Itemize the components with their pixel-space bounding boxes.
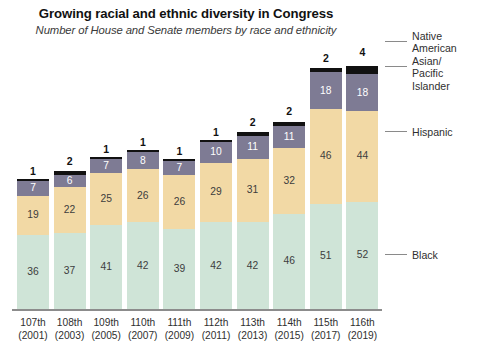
bar-value-hispanic: 46 [320,151,331,161]
bar-segment-black[interactable]: 52 [346,202,378,309]
bar-group[interactable]: 2113142 [237,132,269,309]
bar-value-black: 42 [137,261,148,271]
bar-value-hispanic: 31 [247,185,258,195]
x-axis-label-year: (2019) [339,329,385,342]
bar-value-native-american: 1 [163,146,195,157]
bar-segment-black[interactable]: 41 [90,225,122,309]
bar-segment-hispanic[interactable]: 29 [200,163,232,223]
bar-segment-hispanic[interactable]: 32 [273,148,305,214]
legend-item-label: Asian/ [412,55,482,67]
bar-value-native-american: 2 [237,117,269,128]
plot-area: 1719362622371725411826421726391102942211… [0,0,498,352]
x-axis-label-congress: 108th [57,317,83,328]
bar-value-black: 42 [210,261,221,271]
x-axis-label-congress: 110th [130,317,155,328]
bar-value-asian-pacific-islander: 6 [67,176,73,186]
bar-value-native-american: 4 [346,47,378,58]
bar-group[interactable]: 172639 [163,159,195,309]
bar-segment-hispanic[interactable]: 31 [237,159,269,223]
bar-group[interactable]: 4184452 [346,66,378,309]
bar-segment-asian-pacific-islander[interactable]: 11 [237,136,269,159]
chart-container: Growing racial and ethnic diversity in C… [0,0,498,352]
bar-value-asian-pacific-islander: 18 [357,88,368,98]
bar-value-hispanic: 26 [174,197,185,207]
bar-segment-asian-pacific-islander[interactable]: 11 [273,126,305,149]
bar-value-native-american: 2 [273,106,305,117]
bar-segment-hispanic[interactable]: 26 [127,169,159,223]
bar-group[interactable]: 1102942 [200,140,232,309]
bar-segment-hispanic[interactable]: 22 [54,187,86,232]
legend-item[interactable]: Asian/PacificIslander [412,55,482,92]
bar-segment-black[interactable]: 51 [310,204,342,309]
bar-value-native-american: 1 [200,127,232,138]
bar-value-hispanic: 32 [283,176,294,186]
legend-item-label: Islander [412,80,482,92]
bar-segment-hispanic[interactable]: 46 [310,109,342,204]
bar-value-hispanic: 26 [137,191,148,201]
bar-segment-black[interactable]: 39 [163,229,195,309]
bar-value-black: 37 [64,266,75,276]
bar-value-hispanic: 25 [100,194,111,204]
bar-value-asian-pacific-islander: 11 [247,142,258,152]
bar-segment-black[interactable]: 36 [17,235,49,309]
bar-value-black: 36 [27,267,38,277]
bar-segment-asian-pacific-islander[interactable]: 6 [54,175,86,187]
bar-segment-asian-pacific-islander[interactable]: 7 [163,161,195,175]
bar-value-asian-pacific-islander: 7 [103,161,109,171]
bar-value-asian-pacific-islander: 10 [210,147,221,157]
bar-segment-black[interactable]: 42 [237,222,269,309]
x-axis-label-congress: 116th [350,317,375,328]
bar-segment-native-american[interactable]: 4 [346,66,378,74]
bar-value-asian-pacific-islander: 18 [320,86,331,96]
x-axis-label-congress: 115th [313,317,338,328]
x-axis-line [12,309,382,311]
bar-value-native-american: 2 [310,53,342,64]
bar-value-black: 41 [100,262,111,272]
legend-leader-line [385,41,407,42]
bar-segment-hispanic[interactable]: 25 [90,173,122,225]
bar-value-hispanic: 44 [357,151,368,161]
legend-item-label: Hispanic [412,126,482,138]
bar-segment-black[interactable]: 42 [200,222,232,309]
legend-item-label: Pacific [412,67,482,79]
bar-segment-hispanic[interactable]: 44 [346,111,378,202]
bar-group[interactable]: 172541 [90,157,122,309]
bar-value-native-american: 1 [90,144,122,155]
legend-item[interactable]: NativeAmerican [412,30,482,55]
legend-leader-line [385,66,407,67]
legend-item[interactable]: Black [412,249,482,261]
bar-value-black: 42 [247,261,258,271]
legend-leader-line [385,131,407,132]
bar-value-asian-pacific-islander: 7 [177,163,183,173]
bar-segment-asian-pacific-islander[interactable]: 10 [200,142,232,163]
bar-segment-black[interactable]: 46 [273,214,305,309]
legend-item-label: Native [412,30,482,42]
legend-item[interactable]: Hispanic [412,126,482,138]
bar-value-hispanic: 19 [27,210,38,220]
bar-segment-asian-pacific-islander[interactable]: 7 [17,181,49,195]
bar-value-hispanic: 29 [210,187,221,197]
bar-value-black: 46 [283,256,294,266]
x-axis-label-congress: 114th [277,317,302,328]
bar-value-asian-pacific-islander: 7 [30,183,36,193]
bar-segment-asian-pacific-islander[interactable]: 18 [346,74,378,111]
x-axis-label: 116th(2019) [339,316,385,342]
bar-segment-hispanic[interactable]: 19 [17,196,49,235]
bar-group[interactable]: 171936 [17,179,49,309]
bar-group[interactable]: 2113246 [273,122,305,309]
bar-segment-hispanic[interactable]: 26 [163,175,195,229]
bar-segment-asian-pacific-islander[interactable]: 18 [310,72,342,109]
legend-leader-line [385,254,407,255]
bar-segment-asian-pacific-islander[interactable]: 7 [90,159,122,173]
bar-segment-black[interactable]: 37 [54,233,86,309]
x-axis-label-congress: 107th [20,317,46,328]
bar-segment-asian-pacific-islander[interactable]: 8 [127,152,159,168]
bar-segment-black[interactable]: 42 [127,222,159,309]
bar-value-black: 52 [357,250,368,260]
bar-group[interactable]: 262237 [54,171,86,309]
bar-group[interactable]: 2184651 [310,68,342,309]
bar-group[interactable]: 182642 [127,150,159,309]
x-axis-label-congress: 113th [240,317,265,328]
bar-value-native-american: 1 [127,137,159,148]
x-axis-label-congress: 111th [167,317,191,328]
